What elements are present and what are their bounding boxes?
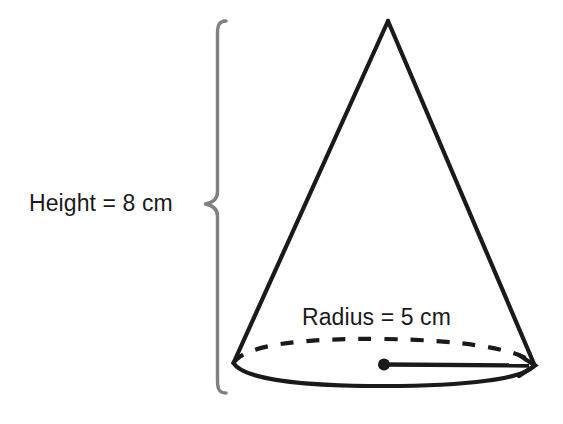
radius-label: Radius = 5 cm [302,304,451,331]
height-label: Height = 8 cm [29,190,173,217]
height-brace [206,21,227,393]
base-center-dot [378,359,390,371]
radius-arrow [378,355,535,376]
cone-diagram: Height = 8 cm Radius = 5 cm [0,0,563,424]
